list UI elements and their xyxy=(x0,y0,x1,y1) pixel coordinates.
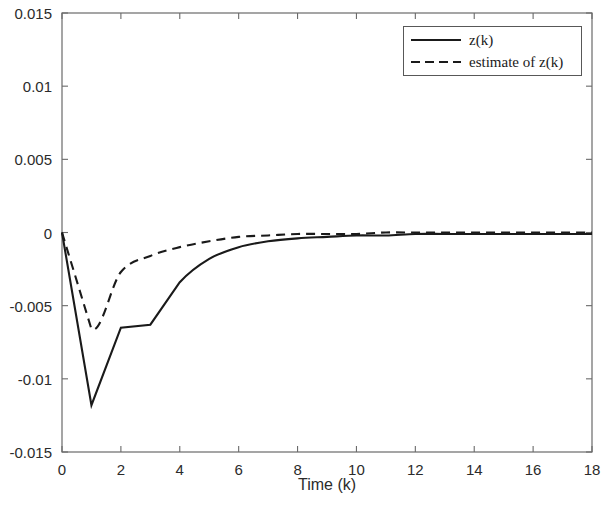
legend-entry-z: z(k) xyxy=(410,29,493,51)
x-tick-label: 2 xyxy=(117,462,125,477)
series-line-z xyxy=(62,233,592,406)
y-tick-label: 0 xyxy=(0,225,52,240)
legend-line-sample-solid xyxy=(410,34,462,46)
x-tick-label: 14 xyxy=(466,462,483,477)
legend-entry-estimate: estimate of z(k) xyxy=(410,51,563,73)
axes-frame xyxy=(62,13,592,452)
x-tick-label: 10 xyxy=(348,462,365,477)
legend-label-z: z(k) xyxy=(469,32,493,49)
x-axis-label: Time (k) xyxy=(298,476,356,494)
x-tick-label: 18 xyxy=(584,462,601,477)
y-tick-label: 0.005 xyxy=(0,152,52,167)
y-tick-label: -0.01 xyxy=(0,371,52,386)
data-series xyxy=(62,232,592,405)
figure-canvas: 0.0150.010.0050-0.005-0.01-0.015 0246810… xyxy=(0,0,601,508)
x-tick-label: 16 xyxy=(525,462,542,477)
y-tick-label: 0.015 xyxy=(0,6,52,21)
y-tick-label: -0.015 xyxy=(0,445,52,460)
x-tick-label: 4 xyxy=(176,462,184,477)
y-tick-label: 0.01 xyxy=(0,79,52,94)
x-tick-label: 12 xyxy=(407,462,424,477)
y-tick-label: -0.005 xyxy=(0,298,52,313)
x-tick-label: 0 xyxy=(58,462,66,477)
axis-ticks xyxy=(62,13,592,452)
x-tick-label: 8 xyxy=(293,462,301,477)
legend-box: z(k) estimate of z(k) xyxy=(403,26,582,76)
legend-label-estimate: estimate of z(k) xyxy=(469,54,563,71)
legend-line-sample-dashed xyxy=(410,56,462,68)
plot-svg xyxy=(0,0,601,508)
x-tick-label: 6 xyxy=(234,462,242,477)
series-line-estimate xyxy=(62,232,592,329)
